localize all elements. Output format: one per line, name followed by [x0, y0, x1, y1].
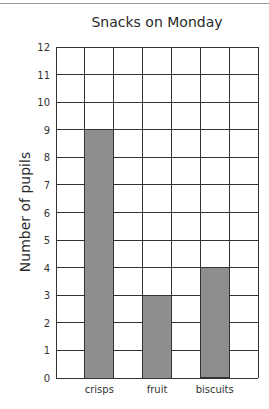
y-tick-label: 4 — [20, 262, 50, 273]
bar-fruit — [142, 295, 172, 379]
y-tick-label: 0 — [20, 373, 50, 384]
bar-crisps — [84, 129, 114, 378]
y-tick-label: 2 — [20, 317, 50, 328]
y-tick-label: 9 — [20, 124, 50, 135]
x-tick-label: fruit — [128, 384, 186, 395]
y-tick-label: 3 — [20, 290, 50, 301]
chart-title: Snacks on Monday — [56, 14, 258, 30]
gridline-vertical — [258, 47, 259, 378]
y-tick-label: 11 — [20, 69, 50, 80]
plot-area — [56, 47, 258, 378]
y-tick-label: 6 — [20, 207, 50, 218]
y-tick-label: 5 — [20, 235, 50, 246]
y-tick-label: 1 — [20, 345, 50, 356]
y-tick-label: 10 — [20, 97, 50, 108]
x-tick-label: crisps — [70, 384, 128, 395]
y-tick-label: 7 — [20, 179, 50, 190]
gridline-vertical — [56, 47, 57, 378]
y-tick-label: 12 — [20, 42, 50, 53]
x-tick-label: biscuits — [186, 384, 244, 395]
y-tick-label: 8 — [20, 152, 50, 163]
top-border-line — [0, 3, 269, 4]
bar-biscuits — [200, 267, 230, 378]
